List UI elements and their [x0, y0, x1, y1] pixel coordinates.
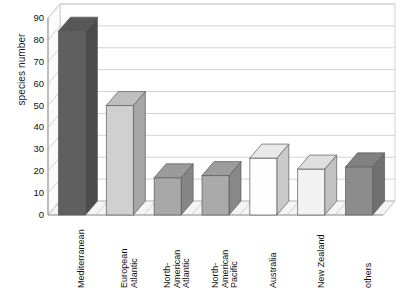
bar-6[interactable] [298, 155, 337, 215]
bar-front-face [298, 169, 325, 215]
x-category-label-3: North- American Atlantic [163, 218, 192, 288]
bar-5[interactable] [250, 144, 289, 215]
bar-1[interactable] [58, 17, 97, 215]
bar-7[interactable] [346, 153, 385, 215]
x-category-label-1: Mediterranean [77, 218, 87, 288]
bar-2[interactable] [106, 92, 145, 215]
x-category-label-5: Australia [269, 218, 279, 288]
bar-side-face [85, 17, 97, 215]
bar-front-face [106, 106, 133, 215]
bar-4[interactable] [202, 162, 241, 215]
bar-front-face [346, 167, 373, 215]
bar-front-face [202, 176, 229, 215]
bar-side-face [133, 92, 145, 215]
x-category-label-7: others [364, 218, 374, 288]
x-category-label-6: New Zealand [317, 218, 327, 288]
bar-3[interactable] [154, 164, 193, 215]
bar-front-face [154, 178, 181, 215]
plot-area [0, 0, 410, 292]
x-category-label-4: North- American Pacific [211, 218, 240, 288]
species-number-bar-chart: species number 0102030405060708090 Medit… [0, 0, 410, 292]
bar-front-face [58, 31, 85, 215]
x-category-label-2: European Atlantic [120, 218, 139, 288]
bar-front-face [250, 158, 277, 215]
